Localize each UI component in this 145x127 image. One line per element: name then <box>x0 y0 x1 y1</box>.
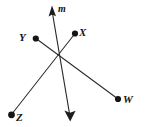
point-dot-z <box>8 111 15 118</box>
point-dot-w <box>115 96 121 102</box>
point-dot-x <box>72 30 78 36</box>
line-m-group <box>49 6 76 122</box>
point-label-z: Z <box>16 112 23 123</box>
geometry-figure: m X Y W Z <box>0 0 145 127</box>
line-m-shaft <box>53 14 70 113</box>
geometry-canvas <box>0 0 145 127</box>
segment-yw-group <box>36 39 118 100</box>
point-label-y: Y <box>19 32 26 43</box>
line-m-arrowhead-down <box>64 111 75 122</box>
segment-xz-group <box>12 34 76 115</box>
line-label-m: m <box>58 3 66 14</box>
point-label-w: W <box>123 94 133 105</box>
segment-xz-line <box>12 34 76 115</box>
point-dot-y <box>33 35 39 41</box>
point-label-x: X <box>79 27 86 38</box>
segment-yw-line <box>36 39 118 100</box>
